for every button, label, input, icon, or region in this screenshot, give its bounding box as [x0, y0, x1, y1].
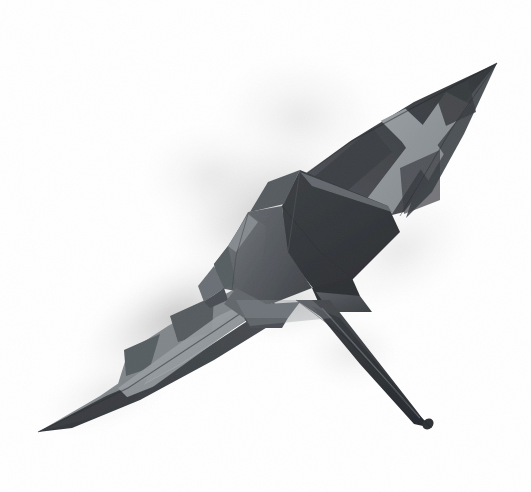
- origami-photograph: Origami swallow / crane folded from patt…: [0, 0, 531, 492]
- photo-stage: Origami swallow / crane folded from patt…: [0, 0, 531, 492]
- film-grain-overlay: [0, 0, 531, 492]
